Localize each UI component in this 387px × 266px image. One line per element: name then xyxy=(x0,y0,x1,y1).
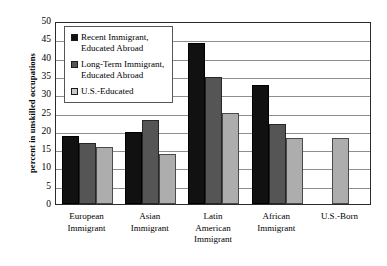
x-axis-category-label: Latin American Immigrant xyxy=(181,211,244,246)
bar xyxy=(269,124,286,204)
x-axis-category-label: European Immigrant xyxy=(55,211,118,234)
legend-item: Recent Immigrant, Educated Abroad xyxy=(71,32,164,53)
legend-swatch-icon xyxy=(71,34,78,41)
y-axis-tick-label: 20 xyxy=(25,127,51,136)
bar xyxy=(188,43,205,204)
bar xyxy=(96,147,113,204)
x-axis-category-label: U.S.-Born xyxy=(308,211,371,223)
bar-chart: percent in unskilled occupations 0510152… xyxy=(0,0,387,266)
bar xyxy=(142,120,159,204)
legend-label: Recent Immigrant, Educated Abroad xyxy=(81,32,148,53)
legend-label: Long-Term Immigrant, Educated Abroad xyxy=(81,59,164,80)
x-axis-category-label: African Immigrant xyxy=(245,211,308,234)
y-axis-tick-label: 5 xyxy=(25,182,51,191)
bar xyxy=(286,138,303,204)
y-axis-tick-label: 10 xyxy=(25,163,51,172)
y-axis-tick-label: 50 xyxy=(25,17,51,26)
bar xyxy=(62,136,79,204)
x-axis-category-label: Asian Immigrant xyxy=(118,211,181,234)
bar xyxy=(252,85,269,204)
legend-label: U.S.-Educated xyxy=(81,86,133,97)
bar-group xyxy=(182,23,245,204)
bar xyxy=(222,113,239,205)
legend: Recent Immigrant, Educated AbroadLong-Te… xyxy=(64,26,173,103)
bar xyxy=(125,132,142,204)
y-axis-tick-label: 30 xyxy=(25,90,51,99)
bar xyxy=(79,143,96,204)
legend-swatch-icon xyxy=(71,88,78,95)
bar-group xyxy=(246,23,309,204)
bar-group xyxy=(309,23,372,204)
bar xyxy=(332,138,349,204)
y-axis-tick-label: 40 xyxy=(25,54,51,63)
legend-item: U.S.-Educated xyxy=(71,86,164,97)
y-axis-tick-label: 35 xyxy=(25,72,51,81)
y-axis-tick-label: 45 xyxy=(25,35,51,44)
legend-swatch-icon xyxy=(71,61,78,68)
y-axis-tick-label: 15 xyxy=(25,145,51,154)
y-axis-tick-label: 25 xyxy=(25,109,51,118)
legend-item: Long-Term Immigrant, Educated Abroad xyxy=(71,59,164,80)
bar xyxy=(159,154,176,205)
bar xyxy=(205,77,222,204)
y-axis-tick-label: 0 xyxy=(25,200,51,209)
